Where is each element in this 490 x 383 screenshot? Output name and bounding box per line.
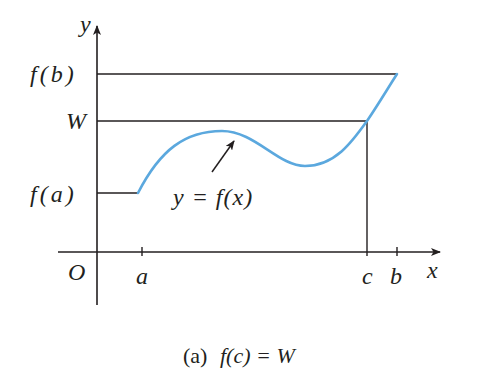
fb-label: f(b) [30, 61, 77, 87]
function-curve [138, 74, 397, 193]
caption-prefix: (a) [183, 343, 207, 368]
curve-label: y = f(x) [171, 184, 253, 210]
fa-label: f(a) [30, 181, 77, 207]
b-label: b [390, 263, 402, 289]
c-label: c [362, 263, 373, 289]
caption-math: f(c) = W [220, 343, 296, 368]
intermediate-value-diagram: y x O f(b) W f(a) a c b y = f(x) (a) f(c… [0, 0, 490, 383]
y-axis-label: y [78, 11, 91, 37]
w-label: W [66, 108, 88, 134]
a-label: a [136, 263, 148, 289]
origin-label: O [68, 259, 85, 285]
x-axis-label: x [426, 257, 438, 283]
curve-pointer-arrow [212, 141, 234, 172]
